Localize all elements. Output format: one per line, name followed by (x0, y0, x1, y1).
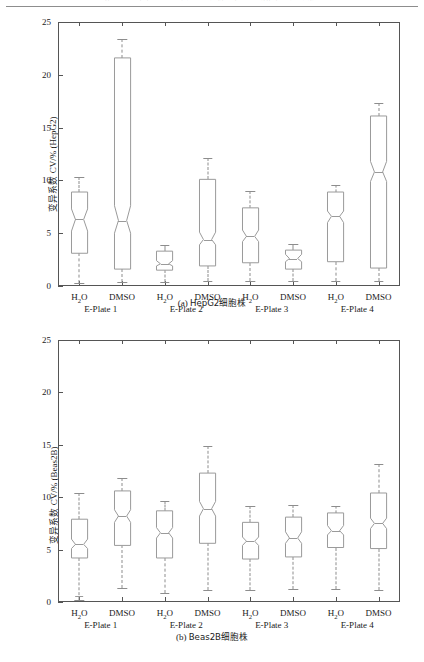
y-tick-a-15 (58, 128, 63, 129)
header-rule (6, 6, 418, 7)
box-shape (242, 22, 259, 286)
y-tick-b-15 (58, 445, 63, 446)
y-tick-label-b-10: 10 (42, 492, 51, 502)
y-tick-a-5 (58, 233, 63, 234)
x-axis-label-b-4: H2O (242, 608, 258, 620)
x-axis-label-a-1: DMSO (109, 292, 135, 302)
figure-page: 第 3 期 张某某等：基于实时细胞分析技术的细胞活性检测方法研究 变异系数 CV… (0, 0, 424, 662)
boxplot-b-7 (370, 340, 387, 602)
median-line (332, 216, 340, 217)
x-axis-label-b-5: DMSO (280, 608, 306, 618)
x-axis-label-b-3: DMSO (195, 608, 221, 618)
boxplot-b-1 (114, 340, 131, 602)
running-head-text: 第 3 期 张某某等：基于实时细胞分析技术的细胞活性检测方法研究 (105, 0, 320, 1)
boxplot-b-6 (327, 340, 344, 602)
figure-b-caption-label: (b) (176, 632, 187, 642)
plot-area-b: 0510152025 (58, 340, 400, 602)
y-tick-label-b-15: 15 (42, 440, 51, 450)
y-axis-label-b-prefix: 变异系数 (49, 508, 59, 544)
box-shape (71, 22, 88, 286)
median-line (204, 509, 212, 510)
x-axis-label-a-5: DMSO (280, 292, 306, 302)
box-shape (285, 340, 302, 602)
box-shape (370, 340, 387, 602)
x-axis-label-b-1: DMSO (109, 608, 135, 618)
median-line (75, 219, 83, 220)
median-line (161, 264, 169, 265)
y-tick-label-a-15: 15 (42, 123, 51, 133)
boxplot-a-5 (285, 22, 302, 286)
y-tick-label-a-10: 10 (42, 175, 51, 185)
median-line (204, 240, 212, 241)
boxplot-b-0 (71, 340, 88, 602)
median-line (75, 544, 83, 545)
y-tick-label-a-20: 20 (42, 70, 51, 80)
box-shape (114, 340, 131, 602)
y-tick-label-a-0: 0 (47, 281, 52, 291)
median-line (289, 538, 297, 539)
median-line (375, 523, 383, 524)
boxplot-a-4 (242, 22, 259, 286)
plot-area-a: 0510152025 (58, 22, 400, 286)
y-tick-b-5 (58, 550, 63, 551)
group-label-b-3: E-Plate 4 (341, 620, 374, 630)
plot-frame-b (58, 340, 400, 602)
box-shape (327, 22, 344, 286)
x-axis-label-b-6: H2O (328, 608, 344, 620)
box-shape (242, 340, 259, 602)
box-shape (370, 22, 387, 286)
boxplot-a-2 (156, 22, 173, 286)
x-axis-label-b-2: H2O (157, 608, 173, 620)
figure-b: 变异系数 CV/% (Beas2B) 0510152025 (b) Beas2B… (0, 330, 424, 660)
y-tick-b-0 (58, 602, 63, 603)
x-axis-label-a-0: H2O (71, 292, 87, 304)
y-tick-a-0 (58, 286, 63, 287)
group-label-b-0: E-Plate 1 (84, 620, 117, 630)
group-label-b-1: E-Plate 2 (170, 620, 203, 630)
outlier-0 (76, 596, 84, 597)
x-axis-label-a-7: DMSO (366, 292, 392, 302)
box-shape (199, 22, 216, 286)
y-tick-a-20 (58, 75, 63, 76)
group-label-a-3: E-Plate 4 (341, 304, 374, 314)
median-line (246, 541, 254, 542)
y-tick-label-b-5: 5 (47, 545, 52, 555)
boxplot-a-7 (370, 22, 387, 286)
y-tick-label-b-20: 20 (42, 387, 51, 397)
y-tick-b-25 (58, 340, 63, 341)
x-axis-label-b-7: DMSO (366, 608, 392, 618)
y-tick-label-b-0: 0 (47, 597, 52, 607)
boxplot-b-2 (156, 340, 173, 602)
median-line (375, 172, 383, 173)
y-tick-b-20 (58, 392, 63, 393)
group-label-a-2: E-Plate 3 (255, 304, 288, 314)
y-tick-label-a-5: 5 (47, 228, 52, 238)
y-tick-label-b-25: 25 (42, 335, 51, 345)
median-line (289, 259, 297, 260)
box-shape (156, 340, 173, 602)
boxplot-b-4 (242, 340, 259, 602)
figure-b-caption-text: Beas2B细胞株 (189, 632, 248, 642)
median-line (118, 516, 126, 517)
plot-frame-a (58, 22, 400, 286)
median-line (332, 531, 340, 532)
y-tick-a-25 (58, 22, 63, 23)
group-label-b-2: E-Plate 3 (255, 620, 288, 630)
boxplot-a-6 (327, 22, 344, 286)
box-shape (285, 22, 302, 286)
x-axis-label-a-2: H2O (157, 292, 173, 304)
boxplot-a-0 (71, 22, 88, 286)
box-shape (199, 340, 216, 602)
boxplot-a-1 (114, 22, 131, 286)
x-axis-label-a-3: DMSO (195, 292, 221, 302)
x-axis-label-b-0: H2O (71, 608, 87, 620)
boxplot-b-5 (285, 340, 302, 602)
box-shape (114, 22, 131, 286)
boxplot-a-3 (199, 22, 216, 286)
figure-a: 变异系数 CV/% (HepG2) 0510152025 (a) HepG2细胞… (0, 14, 424, 314)
group-label-a-1: E-Plate 2 (170, 304, 203, 314)
boxplot-b-3 (199, 340, 216, 602)
box-shape (156, 22, 173, 286)
figure-b-caption: (b) Beas2B细胞株 (0, 630, 424, 642)
running-head: 第 3 期 张某某等：基于实时细胞分析技术的细胞活性检测方法研究 (0, 0, 424, 4)
